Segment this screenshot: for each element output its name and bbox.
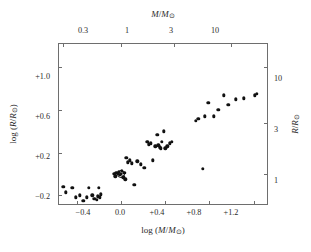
- data-point: [170, 140, 173, 143]
- bottom-tick-3: [209, 201, 210, 205]
- bottom-tick-1: [121, 201, 122, 205]
- top-tick-label-0: 0.3: [78, 27, 88, 35]
- top-tick-3: [231, 43, 232, 47]
- top-tick-0: [63, 43, 64, 47]
- data-point: [64, 190, 67, 193]
- data-point: [142, 166, 145, 169]
- data-point: [132, 183, 135, 186]
- right-tick-label-1: 3: [274, 126, 278, 134]
- right-tick-label-0: 10: [274, 75, 282, 83]
- left-tick-label-1: +0.6: [26, 113, 50, 121]
- data-point: [78, 194, 81, 197]
- right-axis-title-r2: R: [290, 120, 300, 126]
- bottom-tick-label-0: −0.4: [76, 209, 91, 217]
- data-point: [159, 147, 162, 150]
- data-point: [82, 199, 85, 202]
- data-point: [98, 196, 101, 199]
- data-point: [162, 130, 165, 133]
- top-tick-label-1: 1: [125, 27, 129, 35]
- top-axis-title: M/M⊙: [151, 10, 175, 20]
- data-point: [156, 133, 159, 136]
- data-point: [130, 162, 133, 165]
- top-tick-1: [121, 43, 122, 47]
- bottom-axis-title: log (M/M⊙): [141, 226, 184, 236]
- left-axis-title-r: R: [8, 121, 18, 127]
- left-axis-title-r2: R: [8, 113, 18, 119]
- left-tick-label-2: +0.2: [26, 153, 50, 161]
- bottom-axis-title-suffix: ): [182, 225, 185, 235]
- data-point: [242, 97, 245, 100]
- bottom-axis-title-prefix: log (: [141, 225, 158, 235]
- right-tick-label-2: 1: [274, 177, 278, 185]
- bottom-tick-label-4: +1.2: [224, 209, 239, 217]
- sun-symbol-icon: ⊙: [293, 114, 301, 120]
- sun-marker-icon: [117, 170, 125, 178]
- bottom-tick-label-2: +0.4: [150, 209, 165, 217]
- data-point: [74, 196, 77, 199]
- top-axis-title-m: M: [151, 9, 159, 19]
- right-axis-title-r: R: [290, 128, 300, 134]
- right-axis-title: R/R⊙: [291, 114, 301, 134]
- right-tick-2: [264, 174, 268, 175]
- bottom-tick-4: [254, 201, 255, 205]
- data-point: [124, 178, 127, 181]
- bottom-tick-label-1: 0.0: [115, 209, 125, 217]
- sun-symbol-icon: ⊙: [169, 12, 175, 20]
- data-point: [255, 92, 258, 95]
- mass-radius-figure: M/M⊙ 0.3 1 3 10 +1.0 +0.6 +0.2 −0.2 10 3…: [0, 0, 311, 252]
- data-point: [216, 108, 219, 111]
- data-point: [87, 186, 90, 189]
- data-point: [207, 101, 210, 104]
- sun-symbol-icon: ⊙: [11, 107, 19, 113]
- left-tick-label-3: −0.2: [26, 193, 50, 201]
- data-point: [97, 186, 100, 189]
- left-axis-title-prefix: log (: [8, 127, 18, 144]
- data-point: [234, 98, 237, 101]
- data-point: [151, 158, 154, 161]
- right-tick-1: [264, 123, 268, 124]
- bottom-tick-0: [77, 201, 78, 205]
- data-point: [203, 115, 206, 118]
- data-point: [166, 145, 169, 148]
- left-tick-2: [58, 153, 62, 154]
- right-axis-title-slash: /: [290, 126, 300, 129]
- top-tick-2: [174, 43, 175, 47]
- data-points-layer: [59, 44, 267, 204]
- left-tick-label-0: +1.0: [26, 73, 50, 81]
- data-point: [85, 196, 88, 199]
- data-point: [62, 185, 65, 188]
- data-point: [212, 115, 215, 118]
- data-point: [71, 186, 74, 189]
- data-point: [160, 140, 163, 143]
- bottom-tick-label-3: +0.8: [187, 209, 202, 217]
- left-tick-0: [58, 67, 62, 68]
- left-axis-title-slash: /: [8, 119, 18, 122]
- bottom-tick-2: [165, 201, 166, 205]
- top-axis-title-m2: M: [161, 9, 169, 19]
- data-point: [222, 93, 225, 96]
- data-point: [197, 117, 200, 120]
- left-axis-title: log (R/R⊙): [9, 104, 19, 143]
- data-point: [149, 141, 152, 144]
- right-tick-0: [264, 67, 268, 68]
- top-tick-label-2: 3: [169, 27, 173, 35]
- left-tick-1: [58, 110, 62, 111]
- data-point: [201, 167, 204, 170]
- plot-area: [58, 43, 268, 205]
- left-axis-title-suffix: ): [8, 104, 18, 107]
- data-point: [226, 103, 229, 106]
- top-tick-label-3: 10: [211, 27, 219, 35]
- left-tick-3: [58, 195, 62, 196]
- data-point: [99, 193, 102, 196]
